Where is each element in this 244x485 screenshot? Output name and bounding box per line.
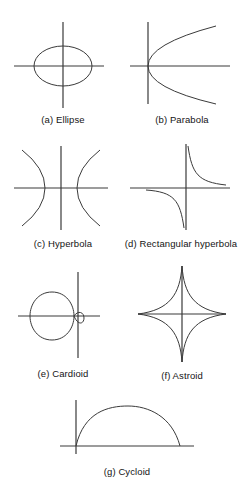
cardioid-cusp-loop	[74, 312, 84, 323]
parabola-curve	[148, 26, 216, 104]
figure-panel-cardioid: (e) Cardioid	[8, 266, 118, 380]
figure-caption-hyperbola: (c) Hyperbola	[34, 238, 92, 250]
rectangular-hyperbola-branch-q3	[146, 190, 184, 228]
rectangular-hyperbola-branch-q1	[188, 146, 226, 185]
figure-caption-astroid: (f) Astroid	[161, 370, 203, 382]
cycloid-arch	[76, 406, 180, 446]
figure-caption-cycloid: (g) Cycloid	[104, 466, 151, 478]
ellipse-plot	[8, 16, 118, 108]
rectangular-hyperbola-plot	[120, 140, 242, 232]
figure-caption-ellipse: (a) Ellipse	[41, 114, 84, 126]
parabola-plot	[126, 16, 238, 108]
figure-panel-rectangular-hyperbola: (d) Rectangular hyperbola	[120, 140, 242, 250]
figure-caption-cardioid: (e) Cardioid	[38, 368, 89, 380]
figure-panel-hyperbola: (c) Hyperbola	[8, 140, 118, 250]
figure-caption-rectangular-hyperbola: (d) Rectangular hyperbola	[125, 238, 237, 250]
figure-panel-astroid: (f) Astroid	[126, 262, 238, 382]
figure-panel-ellipse: (a) Ellipse	[8, 16, 118, 126]
cycloid-plot	[52, 392, 202, 462]
cardioid-plot	[8, 266, 118, 362]
hyperbola-plot	[8, 140, 118, 232]
figure-caption-parabola: (b) Parabola	[155, 114, 208, 126]
figure-sheet: (a) Ellipse (b) Parabola (c) Hyperbola (…	[0, 0, 244, 485]
figure-panel-cycloid: (g) Cycloid	[52, 392, 202, 478]
figure-panel-parabola: (b) Parabola	[126, 16, 238, 126]
astroid-plot	[126, 262, 238, 366]
